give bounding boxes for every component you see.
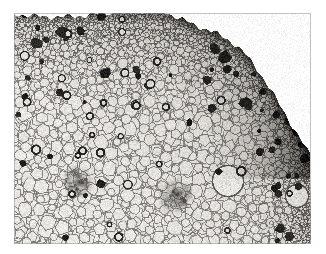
- micrograph-plate: [14, 13, 311, 244]
- micrograph-canvas: [14, 13, 311, 244]
- micrograph-figure: [0, 0, 326, 254]
